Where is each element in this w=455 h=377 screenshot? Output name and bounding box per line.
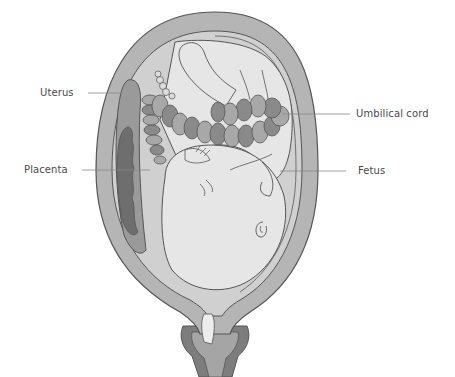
fetus-label: Fetus xyxy=(358,165,385,177)
pregnancy-diagram xyxy=(0,0,455,377)
cervical-plug xyxy=(202,314,215,344)
umbilical-cord-label: Umbilical cord xyxy=(356,108,429,120)
uterus-label: Uterus xyxy=(40,87,74,99)
fetus-body xyxy=(155,40,292,289)
placenta-label: Placenta xyxy=(24,164,68,176)
